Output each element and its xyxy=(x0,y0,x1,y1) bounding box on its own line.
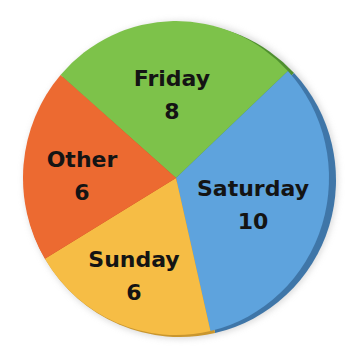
slice-value-saturday: 10 xyxy=(238,209,269,234)
slice-label-friday: Friday xyxy=(134,66,210,91)
slice-value-sunday: 6 xyxy=(126,280,141,305)
slice-value-friday: 8 xyxy=(164,99,179,124)
slice-label-sunday: Sunday xyxy=(88,247,179,272)
slice-label-saturday: Saturday xyxy=(197,176,309,201)
slice-value-other: 6 xyxy=(74,180,89,205)
slice-label-other: Other xyxy=(47,147,118,172)
pie-chart: Friday 8 Saturday 10 Sunday 6 Other 6 xyxy=(0,0,352,353)
